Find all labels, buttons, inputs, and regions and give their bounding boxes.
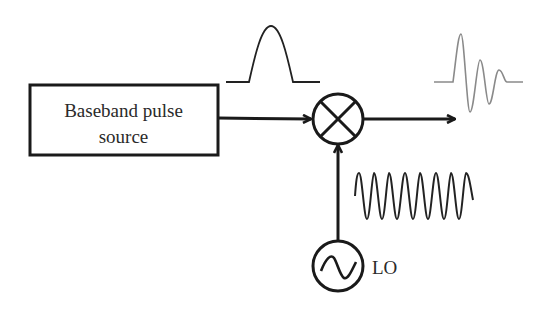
baseband-pulse-waveform (226, 26, 320, 82)
lo-sinusoid-waveform (355, 173, 473, 219)
lo-label: LO (372, 257, 397, 279)
mixer-icon (313, 94, 363, 144)
output-rf-pulse-waveform (434, 34, 523, 112)
baseband-source-label: Baseband pulse source (29, 98, 218, 150)
baseband-source-label-line1: Baseband pulse (29, 98, 218, 124)
baseband-source-label-line2: source (29, 124, 218, 150)
source-to-mixer-arrow (218, 118, 311, 119)
diagram-canvas (0, 0, 553, 311)
lo-source-icon (313, 241, 363, 291)
